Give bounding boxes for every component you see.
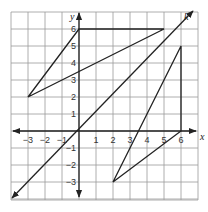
x-tick-label: −2 (40, 135, 50, 145)
x-tick-label: 4 (144, 135, 149, 145)
grid (11, 12, 198, 200)
x-tick-label: 5 (161, 135, 166, 145)
x-tick-label: 3 (127, 135, 132, 145)
x-tick-label: −3 (23, 135, 33, 145)
y-tick-label: 4 (71, 58, 76, 68)
line-k (12, 11, 193, 198)
coordinate-plane: −3−2−1123456654321−1−2−3 x y k (0, 0, 208, 212)
x-tick-label: 6 (178, 135, 183, 145)
y-tick-label: −3 (66, 177, 76, 187)
x-tick-label: 2 (110, 135, 115, 145)
x-tick-label: 1 (93, 135, 98, 145)
y-tick-label: 2 (71, 92, 76, 102)
y-tick-label: 1 (71, 109, 76, 119)
y-tick-label: −1 (66, 143, 76, 153)
y-tick-label: 5 (71, 41, 76, 51)
y-tick-label: 3 (71, 75, 76, 85)
y-tick-label: −2 (66, 160, 76, 170)
x-axis-label: x (199, 131, 205, 142)
line-k-label: k (184, 11, 189, 22)
y-axis-label: y (69, 11, 75, 22)
y-tick-label: 6 (71, 24, 76, 34)
figures (12, 11, 196, 198)
